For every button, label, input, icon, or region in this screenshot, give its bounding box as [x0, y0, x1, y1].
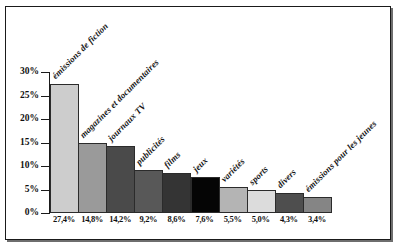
bar-value-label: 14,2%	[106, 214, 134, 224]
y-axis-tick-mark	[41, 213, 50, 214]
bar-value-label: 4,3%	[275, 214, 303, 224]
y-axis-tick-label: 25%	[20, 90, 39, 100]
bar	[219, 187, 248, 213]
bar	[78, 143, 107, 213]
bar-value-label: 5,5%	[219, 214, 247, 224]
bar	[106, 146, 135, 213]
y-axis-tick-label: 15%	[20, 137, 39, 147]
bar-chart: 0%5%10%15%20%25%30% 27,4%14,8%14,2%9,2%8…	[0, 0, 405, 247]
bar-value-label: 14,8%	[78, 214, 106, 224]
y-axis-tick-label: 30%	[20, 66, 39, 76]
y-axis-tick-mark	[41, 190, 50, 191]
bar	[303, 197, 332, 213]
bar-value-label: 9,2%	[134, 214, 162, 224]
y-axis-tick-mark	[41, 143, 50, 144]
chart-page: 0%5%10%15%20%25%30% 27,4%14,8%14,2%9,2%8…	[0, 0, 405, 247]
bar-value-label: 5,0%	[247, 214, 275, 224]
bar	[275, 193, 304, 213]
y-axis-tick-label: 5%	[25, 184, 39, 194]
y-axis-tick-mark	[41, 119, 50, 120]
bar	[134, 170, 163, 213]
bar-value-label: 3,4%	[303, 214, 331, 224]
y-axis-tick-mark	[41, 96, 50, 97]
bar-value-labels: 27,4%14,8%14,2%9,2%8,6%7,6%5,5%5,0%4,3%3…	[50, 214, 331, 228]
bar-value-label: 7,6%	[191, 214, 219, 224]
y-axis-tick-label: 10%	[20, 160, 39, 170]
bar-value-label: 27,4%	[50, 214, 78, 224]
bar	[50, 84, 79, 213]
y-axis-tick-mark	[41, 72, 50, 73]
bar	[191, 177, 220, 213]
y-axis-tick-label: 0%	[25, 207, 39, 217]
bar-value-label: 8,6%	[162, 214, 190, 224]
bar	[247, 190, 276, 214]
y-axis-tick-mark	[41, 166, 50, 167]
bar-series	[50, 72, 331, 213]
y-axis-tick-label: 20%	[20, 113, 39, 123]
bar	[162, 173, 191, 213]
